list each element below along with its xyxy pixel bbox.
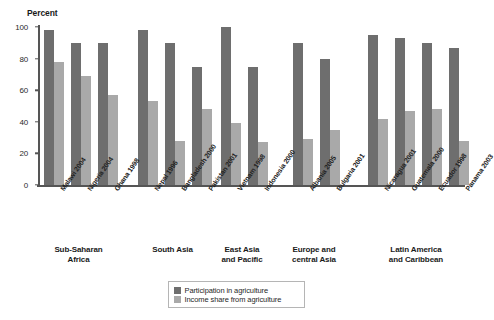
group-label-line1: Europe and [279, 245, 349, 255]
legend-swatch-participation [174, 287, 181, 294]
group-label: Europe andcentral Asia [279, 245, 349, 265]
y-tick-label-60: 60 [0, 86, 28, 95]
group-label-line1: Latin America [381, 245, 451, 255]
legend-item-participation: Participation in agriculture [174, 286, 268, 295]
bar-income-share [81, 76, 91, 185]
group-label-line2: central Asia [279, 255, 349, 265]
group-label-line2: Africa [44, 255, 114, 265]
y-tick-label-0: 0 [0, 181, 28, 190]
y-tick-label-80: 80 [0, 54, 28, 63]
group-label-line1: South Asia [138, 245, 208, 255]
bar-group [293, 27, 347, 185]
bar-pair [368, 27, 389, 185]
legend-label-participation: Participation in agriculture [185, 286, 269, 295]
bar-income-share [108, 95, 118, 185]
legend-label-income-share: Income share from agriculture [185, 295, 282, 304]
group-label: Sub-SaharanAfrica [44, 245, 114, 265]
group-label-line1: Sub-Saharan [44, 245, 114, 255]
group-label-line1: East Asia [207, 245, 277, 255]
chart-legend: Participation in agriculture Income shar… [168, 281, 305, 308]
bar-income-share [54, 62, 64, 185]
x-axis-line [37, 185, 465, 187]
bar-participation [293, 43, 303, 185]
group-label-line2: and Pacific [207, 255, 277, 265]
y-tick-label-40: 40 [0, 117, 28, 126]
y-axis-title: Percent [27, 8, 57, 18]
group-label: South Asia [138, 245, 208, 255]
y-tick-label-20: 20 [0, 149, 28, 158]
bar-participation [368, 35, 378, 185]
plot-area [38, 27, 463, 185]
group-label: Latin Americaand Caribbean [381, 245, 451, 265]
legend-swatch-income-share [174, 296, 181, 303]
bar-income-share [148, 101, 158, 185]
group-label: East Asiaand Pacific [207, 245, 277, 265]
y-tick-label-100: 100 [0, 23, 28, 32]
bar-pair [138, 27, 159, 185]
bar-pair [293, 27, 314, 185]
group-label-line2: and Caribbean [381, 255, 451, 265]
bar-participation [44, 30, 54, 185]
bar-pair [44, 27, 65, 185]
bar-income-share [378, 119, 388, 185]
bar-income-share [303, 139, 313, 185]
legend-item-income-share: Income share from agriculture [174, 295, 281, 304]
